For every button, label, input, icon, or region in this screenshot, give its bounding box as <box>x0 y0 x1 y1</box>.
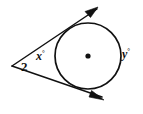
geometry-figure: 2 x° y° <box>0 0 143 114</box>
far-arc-degree-icon: ° <box>127 47 130 55</box>
circle-center-dot <box>85 53 90 58</box>
far-arc-label: y° <box>122 48 130 60</box>
near-arc-degree-icon: ° <box>42 49 45 57</box>
lower-arrow-icon <box>89 91 104 101</box>
vertex-angle-label: 2 <box>21 60 28 73</box>
near-arc-label: x° <box>36 50 45 62</box>
